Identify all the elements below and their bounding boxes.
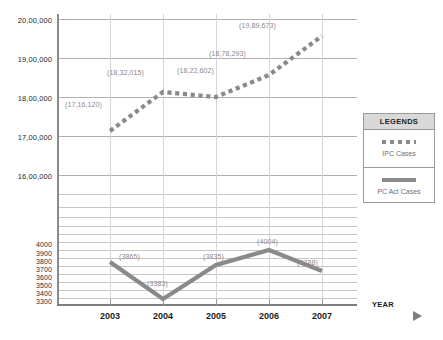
y-tick-label-upper-2: 18,00,000 [2, 94, 52, 103]
data-label-ipc-2004: (18,32,015) [107, 69, 144, 76]
y-tick-label-upper-0: 20,00,000 [2, 16, 52, 25]
x-axis-arrow-icon [413, 311, 422, 321]
y-tick-label-lower-4: 3600 [2, 274, 52, 281]
y-tick-label-lower-5: 3500 [2, 282, 52, 289]
y-tick-label-upper-3: 17,00,000 [2, 133, 52, 142]
legend-item-pc-act-cases[interactable]: PC Act Cases [364, 167, 434, 204]
data-label-pcact-2005: (3835) [203, 253, 224, 260]
data-label-pcact-2007: (3788) [297, 259, 318, 266]
legend-label-ipc-cases: IPC Cases [382, 150, 415, 157]
y-tick-label-lower-2: 3800 [2, 258, 52, 265]
data-label-pcact-2006: (4004) [257, 238, 278, 245]
legend-item-ipc-cases[interactable]: IPC Cases [364, 130, 434, 167]
y-tick-label-upper-4: 16,00,000 [2, 172, 52, 181]
data-label-pcact-2004: (3383) [147, 280, 168, 287]
chart-canvas: 20,00,000 19,00,000 18,00,000 17,00,000 … [0, 0, 443, 340]
x-axis-label-2007: 2007 [302, 311, 342, 321]
y-tick-label-upper-1: 19,00,000 [2, 55, 52, 64]
data-label-ipc-2007: (19,89,673) [239, 22, 276, 29]
data-label-ipc-2006: (18,78,293) [209, 50, 246, 57]
x-axis-label-2003: 2003 [90, 311, 130, 321]
legend-swatch-solid-icon [382, 178, 416, 182]
data-label-pcact-2003: (3865) [119, 253, 140, 260]
x-axis-label-2004: 2004 [143, 311, 183, 321]
legend-swatch-dotted-icon [382, 140, 416, 144]
y-tick-label-lower-0: 4000 [2, 241, 52, 248]
x-axis-title: YEAR [372, 300, 394, 309]
legend-title: LEGENDS [364, 114, 434, 130]
legend-box: LEGENDS IPC Cases PC Act Cases [363, 113, 435, 203]
plot-area: (17,16,120) (18,32,015) (18,22,602) (18,… [57, 14, 342, 306]
y-tick-label-lower-3: 3700 [2, 266, 52, 273]
x-axis-label-2005: 2005 [196, 311, 236, 321]
y-tick-label-lower-1: 3900 [2, 250, 52, 257]
data-label-ipc-2003: (17,16,120) [65, 101, 102, 108]
y-tick-label-lower-7: 3300 [2, 298, 52, 305]
data-label-ipc-2005: (18,22,602) [177, 67, 214, 74]
x-axis-label-2006: 2006 [249, 311, 289, 321]
legend-label-pc-act-cases: PC Act Cases [377, 188, 420, 195]
y-tick-label-lower-6: 3400 [2, 290, 52, 297]
